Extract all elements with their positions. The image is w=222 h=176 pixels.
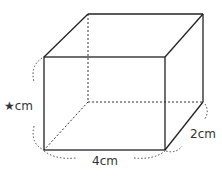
cuboid-diagram [0,0,222,176]
depth-label: 2cm [190,128,216,140]
width-label: 4cm [92,155,118,167]
width-arc-right [134,151,165,158]
dimension-arcs [33,58,207,158]
height-arc-bottom [33,126,44,150]
visible-edges [44,14,203,150]
depth-arc-bottom [166,146,182,152]
height-arc-top [33,58,42,82]
depth-arc-top [204,104,207,120]
width-arc-left [44,151,76,158]
height-label: ★cm [4,100,33,112]
